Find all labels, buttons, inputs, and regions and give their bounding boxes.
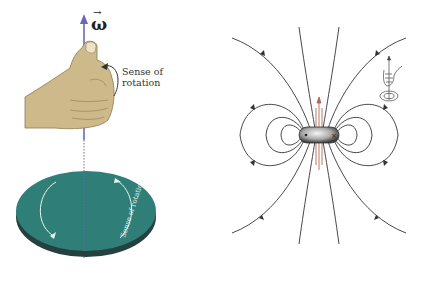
right-hand-icon — [25, 41, 118, 129]
dot-icon — [305, 134, 308, 137]
omega-label: ω — [91, 14, 107, 34]
spinning-disk: Sense of rotation — [16, 171, 156, 257]
axis-arrowhead-icon — [80, 14, 88, 24]
diagram-canvas: Sense of rotation × — [0, 0, 421, 299]
sense-label-line1: Sense of — [122, 66, 163, 77]
sense-label-line2: rotation — [122, 77, 163, 88]
right-hand-rule-icon — [380, 56, 402, 101]
sense-of-rotation-label: Sense of rotation — [122, 66, 163, 88]
cross-icon: × — [331, 132, 337, 140]
